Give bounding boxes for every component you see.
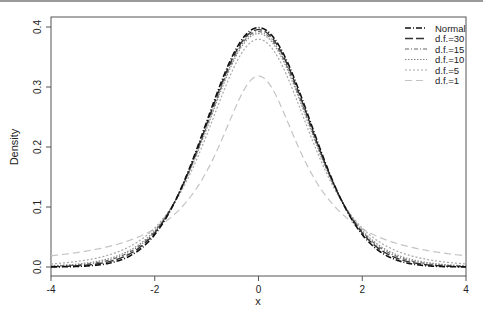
- legend-label: d.f.=30: [435, 33, 464, 44]
- curve-d-f-15: [51, 32, 466, 267]
- legend-item: d.f.=30: [405, 33, 464, 44]
- legend-label: d.f.=1: [435, 75, 459, 86]
- y-tick-label: 0.4: [32, 20, 43, 34]
- legend-item: Normal: [405, 23, 466, 34]
- curve-d-f-1: [51, 76, 466, 256]
- axes: -4-20240.00.10.20.30.4: [32, 20, 469, 295]
- plot-frame: [51, 17, 466, 276]
- y-axis-label: Density: [8, 128, 20, 165]
- legend-item: d.f.=1: [405, 75, 459, 86]
- curve-d-f-5: [51, 39, 466, 264]
- curve-normal: [51, 28, 466, 267]
- legend-label: d.f.=5: [435, 65, 459, 76]
- legend-label: Normal: [435, 23, 466, 34]
- x-axis-label: x: [255, 295, 261, 307]
- curve-d-f-30: [51, 30, 466, 267]
- legend-item: d.f.=5: [405, 65, 459, 76]
- y-tick-label: 0.3: [32, 80, 43, 94]
- x-tick-label: 2: [359, 284, 365, 295]
- y-tick-label: 0.0: [32, 260, 43, 274]
- x-tick-label: -4: [47, 284, 56, 295]
- legend-label: d.f.=15: [435, 44, 464, 55]
- x-tick-label: 0: [256, 284, 262, 295]
- density-chart: -4-20240.00.10.20.30.4 Normald.f.=30d.f.…: [0, 0, 483, 326]
- legend-item: d.f.=15: [405, 44, 464, 55]
- legend-item: d.f.=10: [405, 54, 464, 65]
- x-tick-label: 4: [463, 284, 469, 295]
- y-tick-label: 0.2: [32, 140, 43, 154]
- legend: Normald.f.=30d.f.=15d.f.=10d.f.=5d.f.=1: [405, 23, 466, 87]
- density-curves: [51, 28, 466, 267]
- x-tick-label: -2: [150, 284, 159, 295]
- y-tick-label: 0.1: [32, 200, 43, 214]
- legend-label: d.f.=10: [435, 54, 464, 65]
- curve-d-f-10: [51, 34, 466, 266]
- plot-area: [51, 17, 466, 276]
